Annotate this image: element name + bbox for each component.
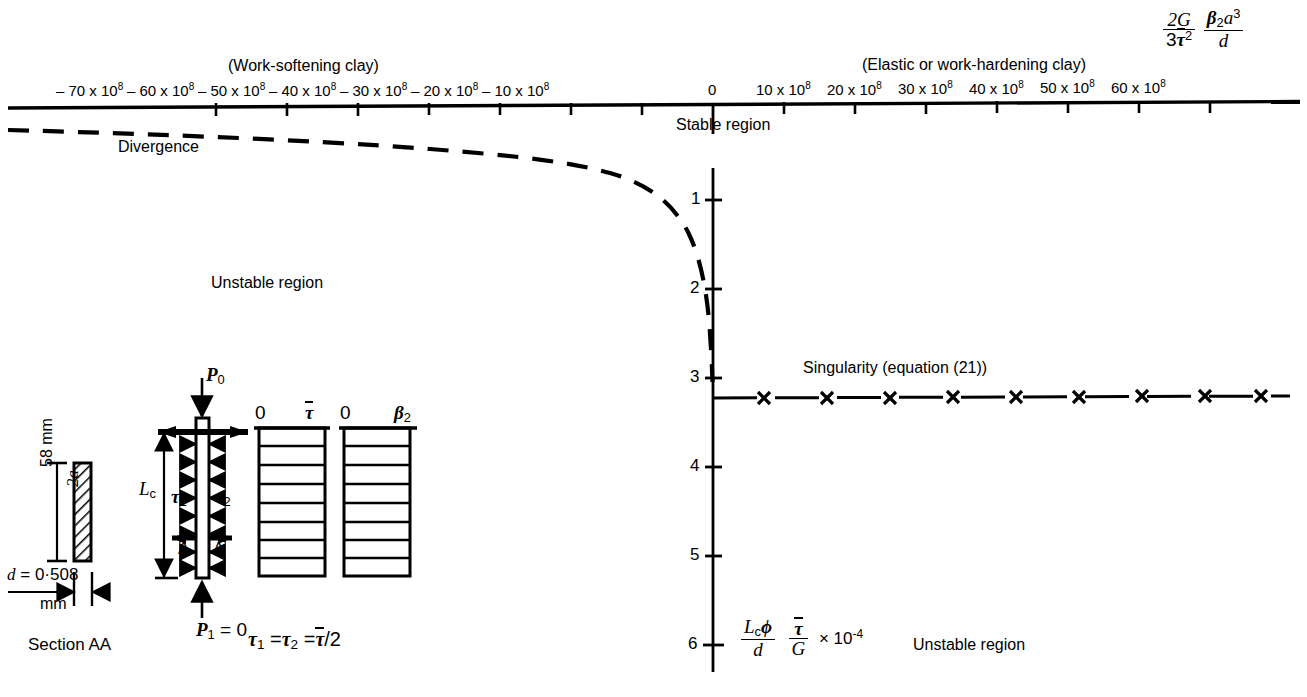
x-tick-label: 20 x 108 xyxy=(827,81,882,97)
y-axis-multiplier-exp: -4 xyxy=(852,627,863,641)
x-tick-label: – 40 x 108 xyxy=(269,82,336,98)
annotation-stable-region: Stable region xyxy=(676,117,770,133)
x-axis-label-3: 3 xyxy=(1166,29,1177,50)
dim-thickness-unit: mm xyxy=(40,596,67,612)
annotation-singularity: Singularity (equation (21)) xyxy=(803,360,987,376)
x-tick-label: 30 x 108 xyxy=(898,80,953,96)
x-tick-label: – 70 x 108 xyxy=(56,82,123,98)
x-tick-label: 10 x 108 xyxy=(756,81,811,97)
x-tick-label: – 60 x 108 xyxy=(127,82,194,98)
profile-box-tau xyxy=(254,428,330,576)
y-tick-label: 4 xyxy=(690,457,699,474)
section-marker-left: A xyxy=(178,540,189,557)
profile-beta-symbol-label: β2 xyxy=(394,403,411,425)
a-symbol: a xyxy=(1224,7,1234,28)
x-tick-label: – 20 x 108 xyxy=(411,82,478,98)
x-tick-label-zero: 0 xyxy=(708,82,716,97)
d-symbol-inset: d xyxy=(7,565,16,584)
dim-thickness-label: d = 0·508 xyxy=(7,566,78,583)
section-aa-caption: Section AA xyxy=(28,636,111,653)
load-P1-label: P1 = 0 xyxy=(196,620,247,642)
Lc-symbol: L xyxy=(744,616,755,637)
y-tick-label: 6 xyxy=(688,635,697,652)
x-tick-label: 60 x 108 xyxy=(1111,79,1166,95)
annotation-divergence: Divergence xyxy=(118,139,199,155)
profile-tau-zero-label: 0 xyxy=(255,403,266,422)
figure-root: – 70 x 108 – 60 x 108 – 50 x 108 – 40 x … xyxy=(0,0,1307,697)
beta-subscript: 2 xyxy=(1217,15,1224,30)
inset-section-aa xyxy=(8,463,106,606)
y-axis xyxy=(703,104,724,672)
x-tick-label: 40 x 108 xyxy=(969,80,1024,96)
shear-tau1-label: τ1 xyxy=(171,487,187,509)
dim-58mm-label: 58 mm xyxy=(39,418,55,467)
profile-beta-zero-label: 0 xyxy=(340,403,351,422)
y-tick-label: 1 xyxy=(691,190,700,207)
inset-pile-elevation xyxy=(155,378,248,618)
shear-tau2-label: τ2 xyxy=(215,487,231,509)
x-tick-label: – 10 x 108 xyxy=(482,82,549,98)
y-tick-label: 3 xyxy=(690,368,699,385)
tau-bar-symbol-y: τ xyxy=(794,619,802,638)
length-Lc-label: Lc xyxy=(139,479,156,501)
x-axis-label-2G: 2G xyxy=(1167,9,1190,30)
tau-bar-symbol: τ xyxy=(1177,30,1185,49)
x-tick-label: – 50 x 108 xyxy=(198,82,265,98)
d-symbol: d xyxy=(1219,30,1229,51)
x-tick-label: – 30 x 108 xyxy=(340,82,407,98)
a-exponent: 3 xyxy=(1233,6,1240,21)
x-axis-label-exp2: 2 xyxy=(1185,28,1192,43)
profile-box-beta2 xyxy=(339,428,417,576)
annotation-work-softening: (Work-softening clay) xyxy=(228,58,379,74)
annotation-unstable-region-left: Unstable region xyxy=(211,275,323,291)
phi-symbol: ϕ xyxy=(761,616,772,637)
y-tick-label: 5 xyxy=(690,546,699,563)
singularity-line xyxy=(713,390,1290,404)
section-marker-right: A xyxy=(213,540,224,557)
annotation-unstable-region-bottom: Unstable region xyxy=(913,637,1025,653)
annotation-elastic-hardening: (Elastic or work-hardening clay) xyxy=(862,57,1086,73)
y-tick-label: 2 xyxy=(690,279,699,296)
x-axis xyxy=(8,101,1300,116)
G-symbol: G xyxy=(792,638,806,659)
load-P0-label: P0 xyxy=(206,365,225,387)
profile-tau-symbol-label: τ xyxy=(305,403,313,422)
shear-relation-label: τ1 =τ2 =τ/2 xyxy=(248,629,341,652)
y-axis-label: Lcϕ d τ G × 10-4 xyxy=(741,617,863,659)
dim-2a-label: 2a xyxy=(64,470,81,487)
beta-symbol: β xyxy=(1207,7,1217,28)
inset-stress-profiles xyxy=(254,428,417,576)
y-axis-multiplier: × 10 xyxy=(819,629,853,648)
x-axis-label: 2G 3τ2 β2a3 d xyxy=(1163,8,1243,50)
x-tick-label: 50 x 108 xyxy=(1040,79,1095,95)
d-symbol-y: d xyxy=(753,639,763,660)
diagram-vector-layer xyxy=(0,0,1307,697)
divergence-curve xyxy=(8,130,713,382)
